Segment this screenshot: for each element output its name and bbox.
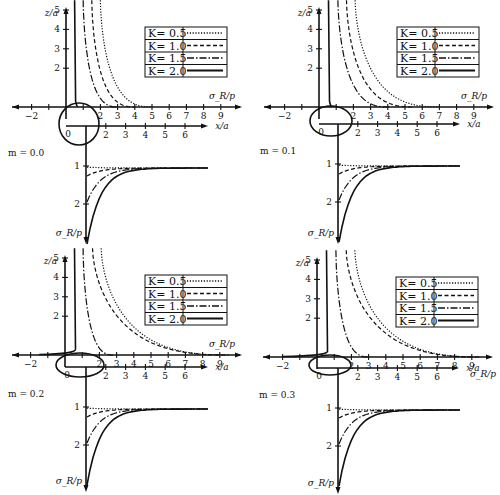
x-tick-label: 6 [434,128,440,138]
lower-tick-label: 2 [74,199,80,209]
sigma-tick-label: −2 [24,359,37,369]
lower-curve-K20 [339,410,460,486]
upper-curve-K10 [92,0,135,107]
sigma-axis-label: σ_R/p [461,91,487,102]
hole-boundary [310,106,352,136]
arrowhead-icon [235,105,242,110]
arrowhead-icon [453,122,460,127]
lower-tick-label: 1 [326,403,332,413]
arrowhead-icon [487,105,494,110]
legend-entry: K= 1.5 [148,52,186,65]
sigma-tick-label: 4 [385,111,391,121]
lower-curve-K15 [87,168,208,202]
lower-curve-K15 [339,410,460,444]
lower-curve-K20 [339,166,460,242]
x-tick-label: 2 [103,130,109,140]
x-origin-label: 0 [65,129,71,139]
lower-tick-label: 2 [326,197,332,207]
z-tick-label: 4 [53,272,59,282]
legend-entry: K= 2.0 [400,65,438,78]
sigma-tick-label: 8 [201,111,207,121]
arrowhead-icon [235,353,242,358]
lower-tick-label: 2 [326,441,332,451]
arrowhead-icon [12,105,19,110]
x-tick-label: 5 [414,128,420,138]
hole-boundary [309,355,351,375]
sigma-tick-label: 5 [149,111,155,121]
x-tick-label: 3 [375,372,381,382]
z-tick-label: 2 [307,63,313,73]
arrowhead-icon [486,355,493,360]
arrowhead-icon [264,105,271,110]
hole-boundary [59,103,99,145]
x-tick-label: 2 [355,128,361,138]
x-tick-label: 3 [375,128,381,138]
z-tick-label: 3 [305,294,311,304]
lower-sigma-label: σ_R/p [308,228,334,239]
x-tick-label: 4 [395,372,401,382]
legend-entry: K= 1.5 [399,302,437,315]
z-tick-label: 2 [54,63,60,73]
sigma-tick-label: −2 [278,111,291,121]
z-axis-label: z/a [43,256,57,266]
upper-curve-K15 [336,250,369,357]
sigma-tick-label: −2 [25,111,38,121]
legend: K= 0.5K= 1.0K= 1.5K= 2.0 [145,27,227,78]
x-tick-label: 6 [434,372,440,382]
legend-entry: K= 0.5 [148,275,186,288]
sigma-tick-label: 5 [400,361,406,371]
lower-tick-label: 1 [74,161,80,171]
figure: −223456789σ_R/p2345z/a023456x/am = 0.012… [0,0,500,495]
x-tick-label: 4 [395,128,401,138]
chart-panel-m-3: −223456789σ_R/p2345z/a023456x/am = 0.312… [251,250,500,495]
legend-entry: K= 0.5 [148,27,186,40]
arrowhead-icon [336,487,341,494]
legend-entry: K= 0.5 [399,277,437,290]
upper-curve-K15 [83,248,113,355]
legend-entry: K= 2.0 [148,313,186,326]
lower-sigma-label: σ_R/p [308,478,334,489]
lower-tick-label: 1 [326,159,332,169]
legend: K= 0.5K= 1.0K= 1.5K= 2.0 [396,277,478,328]
x-tick-label: 5 [414,372,420,382]
lower-curve-K20 [87,409,208,485]
z-axis-label: z/a [295,258,309,268]
arrowhead-icon [84,485,89,492]
arrowhead-icon [201,124,208,129]
x-tick-label: 5 [162,371,168,381]
m-value-label: m = 0.0 [8,148,44,158]
upper-curve-K15 [83,0,117,107]
z-tick-label: 4 [305,274,311,284]
x-tick-label: 6 [182,371,188,381]
chart-panel-m-1: −223456789σ_R/p2345z/a023456x/am = 0.112… [252,0,500,247]
legend-entry: K= 1.0 [148,40,186,53]
legend-entry: K= 1.0 [148,288,186,301]
sigma-tick-label: 9 [218,111,224,121]
legend-entry: K= 0.5 [400,27,438,40]
upper-curve-K20 [329,0,332,106]
legend-entry: K= 1.0 [400,40,438,53]
lower-sigma-label: σ_R/p [56,228,82,239]
sigma-tick-label: 7 [184,111,190,121]
x-axis-label: x/a [215,121,228,131]
lower-curve-K15 [339,166,460,200]
z-tick-label: 4 [307,24,313,34]
sigma-tick-label: 6 [166,111,172,121]
m-value-label: m = 0.3 [259,390,295,400]
x-tick-label: 2 [355,372,361,382]
sigma-tick-label: 4 [383,361,389,371]
sigma-tick-label: 3 [366,361,372,371]
lower-tick-label: 1 [74,402,80,412]
legend: K= 0.5K= 1.0K= 1.5K= 2.0 [145,275,227,326]
chart-panel-m-2: −223456789σ_R/p2345z/a023456x/am = 0.212… [0,248,250,495]
z-axis-label: z/a [44,8,58,18]
legend-entry: K= 1.5 [400,52,438,65]
sigma-tick-label: 6 [417,361,423,371]
z-tick-label: 3 [53,292,59,302]
z-tick-label: 2 [305,313,311,323]
upper-curve-K15 [338,0,388,107]
x-axis-label: x/a [466,363,479,373]
x-axis-label: x/a [467,119,480,129]
x-tick-label: 3 [123,130,129,140]
lower-curve-K15 [87,409,208,443]
